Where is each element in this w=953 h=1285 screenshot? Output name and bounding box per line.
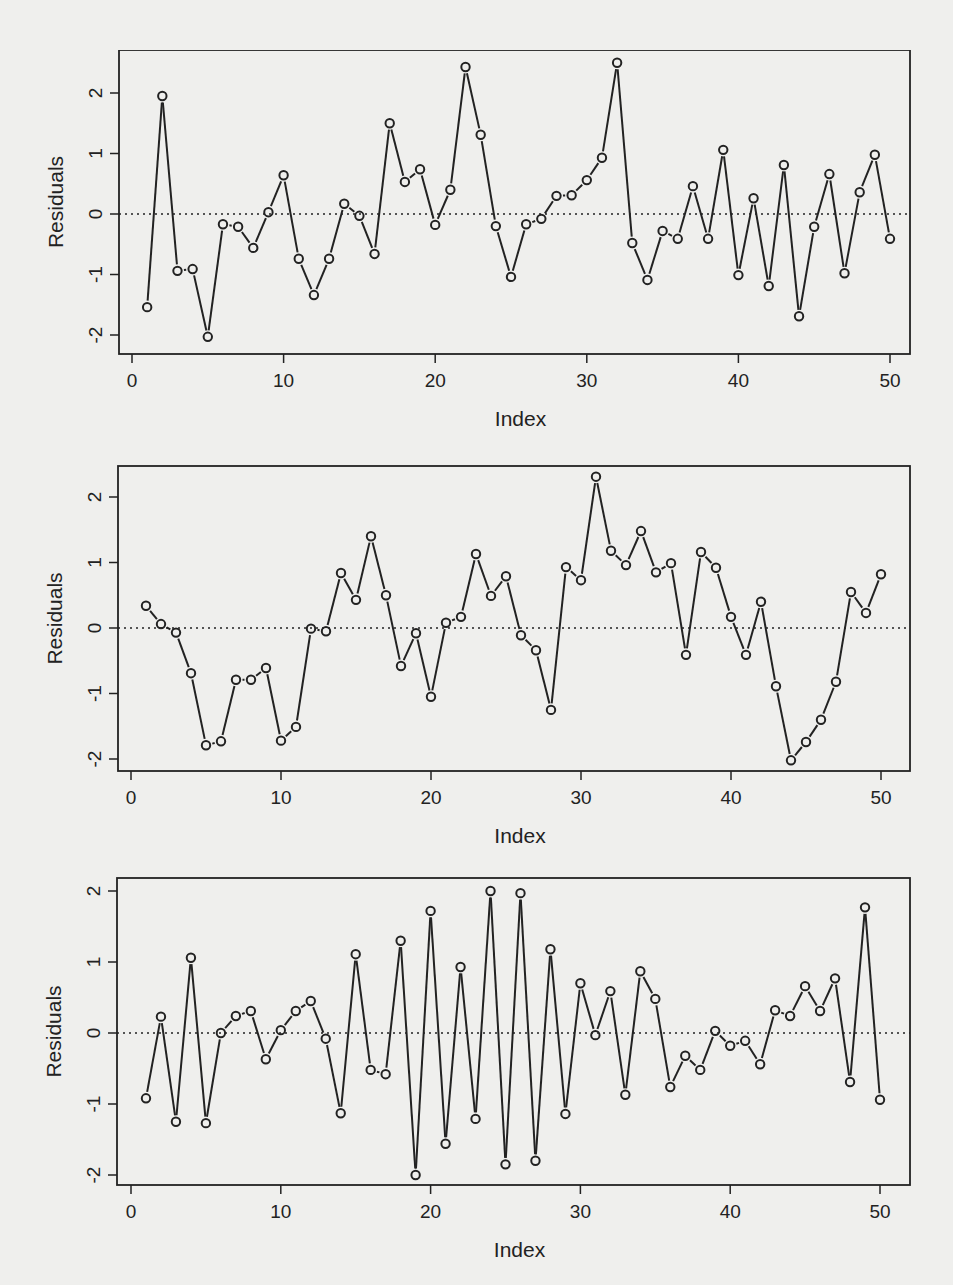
data-point-marker: [322, 627, 330, 635]
series-segment: [724, 156, 738, 268]
data-point-marker: [426, 907, 434, 915]
data-point-marker: [411, 1171, 419, 1179]
data-point-marker: [188, 265, 196, 273]
data-point-marker: [461, 63, 469, 71]
series-segment: [223, 686, 235, 735]
x-tick-label: 30: [570, 787, 591, 808]
data-point-marker: [307, 997, 315, 1005]
data-point-marker: [711, 1027, 719, 1035]
series-segment: [417, 640, 429, 691]
series-segment: [526, 640, 532, 646]
series-segment: [552, 574, 566, 704]
y-tick-label: 0: [83, 1028, 104, 1039]
series-segment: [800, 233, 813, 310]
series-segment: [536, 956, 550, 1155]
data-point-marker: [871, 151, 879, 159]
data-point-marker: [501, 1160, 509, 1168]
series-segment: [695, 192, 707, 232]
series-segment: [344, 579, 353, 595]
series-segment: [467, 73, 479, 128]
data-point-marker: [816, 1007, 824, 1015]
series-segment: [855, 597, 862, 607]
series-segment: [192, 964, 206, 1116]
y-axis-title: Residuals: [43, 572, 66, 664]
series-segment: [571, 571, 576, 576]
data-point-marker: [606, 987, 614, 995]
series-segment: [635, 249, 645, 274]
series-segment: [297, 635, 310, 720]
data-point-marker: [712, 564, 720, 572]
data-point-marker: [502, 572, 510, 580]
data-point-marker: [325, 255, 333, 263]
data-point-marker: [492, 222, 500, 230]
data-point-marker: [173, 267, 181, 275]
data-point-marker: [877, 570, 885, 578]
series-segment: [508, 583, 520, 629]
data-point-marker: [516, 889, 524, 897]
series-segment: [491, 897, 505, 1157]
series-segment: [404, 639, 414, 660]
series-segment: [770, 171, 784, 279]
data-point-marker: [367, 532, 375, 540]
data-point-marker: [262, 1055, 270, 1063]
data-point-marker: [396, 937, 404, 945]
series-segment: [718, 574, 729, 611]
data-point-marker: [591, 1031, 599, 1039]
series-segment: [810, 725, 818, 736]
data-point-marker: [247, 676, 255, 684]
x-tick-label: 0: [126, 1201, 137, 1222]
series-segment: [476, 897, 490, 1112]
series-segment: [672, 570, 685, 649]
data-point-marker: [726, 1042, 734, 1050]
series-segment: [673, 1062, 682, 1082]
data-point-marker: [742, 651, 750, 659]
series-segment: [532, 221, 535, 222]
data-point-marker: [652, 568, 660, 576]
data-point-marker: [157, 620, 165, 628]
data-point-marker: [831, 974, 839, 982]
data-point-marker: [416, 165, 424, 173]
series-segment: [178, 639, 188, 667]
series-segment: [777, 693, 789, 754]
data-point-marker: [561, 1110, 569, 1118]
series-segment: [461, 973, 475, 1112]
data-point-marker: [592, 472, 600, 480]
series-segment: [357, 543, 369, 594]
data-point-marker: [187, 669, 195, 677]
data-point-marker: [622, 561, 630, 569]
series-segment: [538, 657, 550, 704]
series-segment: [629, 537, 639, 559]
series-segment: [498, 232, 509, 270]
series-segment: [285, 182, 298, 253]
data-point-marker: [825, 170, 833, 178]
series-segment: [755, 205, 768, 280]
series-segment: [551, 956, 565, 1108]
data-point-marker: [628, 239, 636, 247]
data-point-marker: [456, 963, 464, 971]
series-segment: [662, 567, 666, 569]
series-segment: [150, 611, 157, 619]
series-segment: [709, 156, 722, 232]
data-point-marker: [522, 220, 530, 228]
series-segment: [286, 731, 291, 736]
data-point-marker: [486, 887, 494, 895]
series-segment: [357, 961, 370, 1064]
x-tick-label: 0: [127, 370, 138, 391]
series-segment: [808, 992, 816, 1006]
series-segment: [781, 1013, 784, 1014]
x-tick-label: 40: [720, 787, 741, 808]
series-segment: [687, 558, 700, 648]
data-point-marker: [234, 223, 242, 231]
series-segment: [506, 900, 520, 1158]
series-segment: [313, 1007, 323, 1033]
data-point-marker: [876, 1096, 884, 1104]
x-tick-label: 40: [728, 370, 749, 391]
data-point-marker: [172, 1118, 180, 1126]
data-point-marker: [370, 250, 378, 258]
series-segment: [301, 1005, 305, 1008]
data-point-marker: [381, 1070, 389, 1078]
data-point-marker: [202, 1119, 210, 1127]
series-segment: [377, 1072, 379, 1073]
series-segment: [256, 672, 261, 676]
data-point-marker: [232, 676, 240, 684]
